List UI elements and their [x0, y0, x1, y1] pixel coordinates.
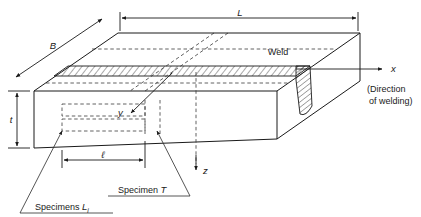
direction-of-welding-line1: (Direction	[367, 84, 406, 94]
dim-ell-label: ℓ	[100, 149, 105, 160]
dim-B-label: B	[50, 40, 57, 51]
specimen-t-symbol: T	[161, 184, 168, 195]
specimen-t-prefix: Specimen	[118, 185, 161, 195]
dim-t-label: t	[10, 114, 13, 125]
specimens-l-label: Specimens Li	[35, 201, 89, 214]
direction-of-welding-line2: of welding)	[369, 96, 413, 106]
specimens-l-prefix: Specimens	[35, 202, 82, 212]
specimen-t-label: Specimen T	[118, 184, 168, 195]
weld-strip-hatched	[54, 66, 310, 76]
weld-label: Weld	[268, 47, 288, 57]
dim-L-label: L	[237, 7, 242, 18]
axis-x-label: x	[390, 63, 397, 74]
plate-front-face	[34, 91, 277, 148]
specimens-l-subscript: i	[87, 207, 89, 214]
figure-container: L B t ℓ x y z Weld (Direction of welding…	[0, 0, 421, 217]
welded-plate-diagram: L B t ℓ x y z Weld (Direction of welding…	[0, 0, 421, 217]
axis-z-label: z	[202, 165, 208, 176]
